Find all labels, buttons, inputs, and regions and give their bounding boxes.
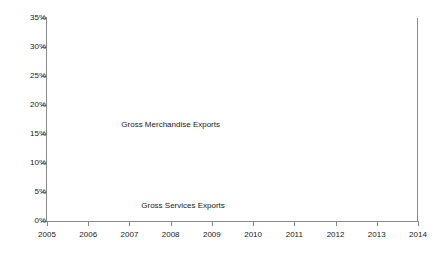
x-tick-label: 2007 — [109, 230, 149, 239]
stacked-area-chart: % of GDP 0%5%10%15%20%25%30%35% 20052006… — [0, 0, 433, 256]
y-tick-label: 0% — [8, 217, 46, 225]
x-tick-mark — [129, 221, 130, 226]
y-tick-label: 35% — [8, 14, 46, 22]
x-tick-label: 2014 — [398, 230, 433, 239]
x-tick-mark — [171, 221, 172, 226]
x-tick-mark — [253, 221, 254, 226]
y-tick-label: 30% — [8, 43, 46, 51]
x-tick-mark — [88, 221, 89, 226]
x-tick-mark — [294, 221, 295, 226]
x-tick-label: 2013 — [357, 230, 397, 239]
y-tick-label: 15% — [8, 130, 46, 138]
y-tick-label: 10% — [8, 159, 46, 167]
y-tick-label: 25% — [8, 72, 46, 80]
y-tick-label: 20% — [8, 101, 46, 109]
x-tick-label: 2009 — [192, 230, 232, 239]
x-tick-mark — [377, 221, 378, 226]
x-axis-line — [46, 221, 419, 222]
x-tick-label: 2005 — [27, 230, 67, 239]
series-label: Gross Merchandise Exports — [121, 120, 220, 129]
series-label: Gross Services Exports — [141, 201, 225, 210]
x-tick-label: 2011 — [274, 230, 314, 239]
x-tick-label: 2006 — [68, 230, 108, 239]
x-tick-mark — [418, 221, 419, 226]
x-tick-mark — [212, 221, 213, 226]
plot-area — [47, 18, 418, 221]
x-tick-mark — [47, 221, 48, 226]
x-tick-label: 2012 — [316, 230, 356, 239]
plot-background — [47, 18, 418, 221]
y-tick-label: 5% — [8, 188, 46, 196]
x-tick-label: 2008 — [151, 230, 191, 239]
x-tick-label: 2010 — [233, 230, 273, 239]
x-tick-mark — [336, 221, 337, 226]
